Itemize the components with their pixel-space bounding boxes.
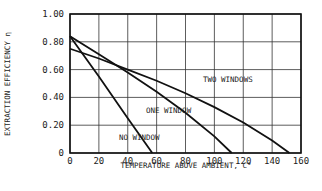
chart: 02040608010012014016000.200.400.600.801.… bbox=[0, 0, 322, 191]
y-tick-label: 0.20 bbox=[42, 120, 64, 130]
series-lines bbox=[70, 36, 289, 153]
x-tick-label: 140 bbox=[264, 156, 280, 166]
y-tick-label: 0.40 bbox=[42, 92, 64, 102]
x-tick-label: 20 bbox=[93, 156, 104, 166]
y-tick-label: 1.00 bbox=[42, 9, 64, 19]
x-tick-label: 160 bbox=[293, 156, 309, 166]
annotation-no-window: NO WINDOW bbox=[119, 133, 160, 142]
y-tick-label: 0.80 bbox=[42, 37, 64, 47]
series-two-windows bbox=[70, 49, 289, 153]
y-tick-label: 0.60 bbox=[42, 65, 64, 75]
y-tick-label: 0 bbox=[59, 148, 64, 158]
annotation-one-window: ONE WINDOW bbox=[146, 106, 192, 115]
y-axis-label: EXTRACTION EFFICIENCY η bbox=[3, 32, 12, 136]
tick-labels: 02040608010012014016000.200.400.600.801.… bbox=[42, 9, 309, 166]
x-axis-label: TEMPERATURE ABOVE AMBIENT, C° bbox=[121, 161, 252, 170]
annotation-two-windows: TWO WINDOWS bbox=[203, 75, 253, 84]
x-tick-label: 0 bbox=[67, 156, 72, 166]
